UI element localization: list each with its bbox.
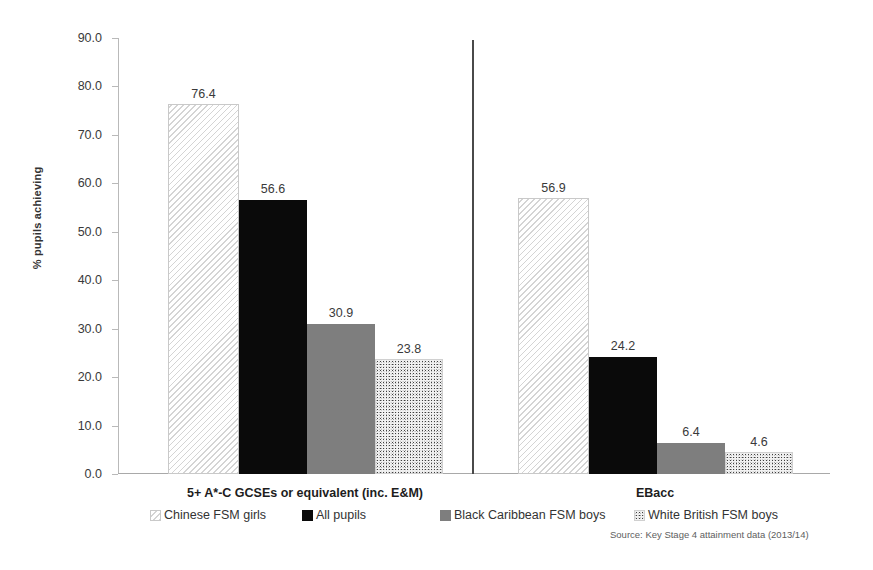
y-tick-40: 40.0 xyxy=(112,280,118,281)
bar-value-label: 76.4 xyxy=(191,87,215,101)
bar-value-label: 23.8 xyxy=(397,342,421,356)
y-tick-label-20: 20.0 xyxy=(78,370,102,384)
y-tick-20: 20.0 xyxy=(112,377,118,378)
bar-value-label: 4.6 xyxy=(750,435,767,449)
y-tick-label-60: 60.0 xyxy=(78,176,102,190)
y-axis-line xyxy=(118,38,119,474)
legend-label: Black Caribbean FSM boys xyxy=(454,508,605,522)
y-tick-70: 70.0 xyxy=(112,135,118,136)
y-tick-30: 30.0 xyxy=(112,329,118,330)
bar-group2-black-caribbean-fsm-boys[interactable]: 6.4 xyxy=(657,443,725,474)
legend-swatch-speckle-icon xyxy=(634,510,645,521)
bar-value-label: 30.9 xyxy=(329,306,353,320)
bar-group1-black-caribbean-fsm-boys[interactable]: 30.9 xyxy=(307,324,375,474)
y-tick-label-50: 50.0 xyxy=(78,225,102,239)
source-note: Source: Key Stage 4 attainment data (201… xyxy=(610,529,809,540)
y-tick-90: 90.0 xyxy=(112,38,118,39)
legend-label: White British FSM boys xyxy=(648,508,778,522)
bar-group2-all-pupils[interactable]: 24.2 xyxy=(589,357,657,474)
legend-item-chinese-fsm-girls[interactable]: Chinese FSM girls xyxy=(150,508,266,522)
plot-area: 90.0 80.0 70.0 60.0 50.0 40.0 30.0 20.0 … xyxy=(118,38,830,474)
y-tick-80: 80.0 xyxy=(112,86,118,87)
legend-item-white-british-fsm-boys[interactable]: White British FSM boys xyxy=(634,508,778,522)
legend-item-all-pupils[interactable]: All pupils xyxy=(302,508,366,522)
bar-value-label: 56.9 xyxy=(541,181,565,195)
x-category-label-gcse: 5+ A*-C GCSEs or equivalent (inc. E&M) xyxy=(187,486,423,500)
x-category-label-ebacc: EBacc xyxy=(636,486,674,500)
y-tick-label-90: 90.0 xyxy=(78,31,102,45)
y-tick-label-80: 80.0 xyxy=(78,79,102,93)
y-tick-0: 0.0 xyxy=(112,474,118,475)
y-tick-60: 60.0 xyxy=(112,183,118,184)
bar-group2-chinese-fsm-girls[interactable]: 56.9 xyxy=(518,198,589,474)
bar-group2-white-british-fsm-boys[interactable]: 4.6 xyxy=(725,452,793,474)
y-tick-label-30: 30.0 xyxy=(78,322,102,336)
legend-swatch-hatch-icon xyxy=(150,510,161,521)
chart-legend: Chinese FSM girls All pupils Black Carib… xyxy=(150,508,850,526)
bar-chart: % pupils achieving 90.0 80.0 70.0 60.0 5… xyxy=(0,0,873,570)
group-separator-line xyxy=(472,40,474,474)
bar-group1-white-british-fsm-boys[interactable]: 23.8 xyxy=(375,359,443,474)
legend-item-black-caribbean-fsm-boys[interactable]: Black Caribbean FSM boys xyxy=(440,508,605,522)
y-tick-label-0: 0.0 xyxy=(85,467,102,481)
bar-group1-all-pupils[interactable]: 56.6 xyxy=(239,200,307,474)
legend-label: All pupils xyxy=(316,508,366,522)
y-tick-label-70: 70.0 xyxy=(78,128,102,142)
bar-value-label: 24.2 xyxy=(611,339,635,353)
y-tick-label-10: 10.0 xyxy=(78,419,102,433)
y-tick-50: 50.0 xyxy=(112,232,118,233)
legend-swatch-black-icon xyxy=(302,510,313,521)
legend-swatch-gray-icon xyxy=(440,510,451,521)
bar-value-label: 6.4 xyxy=(682,425,699,439)
legend-label: Chinese FSM girls xyxy=(164,508,266,522)
bar-value-label: 56.6 xyxy=(261,182,285,196)
y-tick-10: 10.0 xyxy=(112,426,118,427)
y-axis-title: % pupils achieving xyxy=(31,143,43,293)
bar-group1-chinese-fsm-girls[interactable]: 76.4 xyxy=(168,104,239,474)
y-tick-label-40: 40.0 xyxy=(78,273,102,287)
